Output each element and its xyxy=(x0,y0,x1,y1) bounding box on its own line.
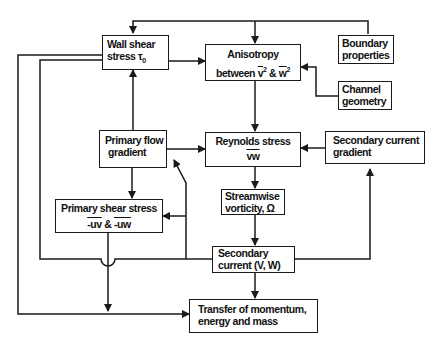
boundary-line1: Boundary xyxy=(342,37,390,49)
channel-line1: Channel xyxy=(342,83,388,95)
wall-shear-line1: Wall shear xyxy=(107,38,164,50)
anisotropy-line1: Anisotropy xyxy=(210,48,296,60)
node-secondary-current: Secondary current (V, W) xyxy=(212,246,295,273)
reynolds-line1: Reynolds stress xyxy=(210,135,296,147)
flowchart: Wall shear stress τ0 Anisotropy between … xyxy=(0,0,434,351)
vorticity-line1: Streamwise xyxy=(225,190,281,202)
w-bar: w xyxy=(279,67,287,79)
anisotropy-line2: between v2 & w2 xyxy=(210,64,296,79)
edge-channel-to-anisotropy xyxy=(301,67,338,96)
w-squared: 2 xyxy=(287,66,291,73)
node-secondary-current-gradient: Secondary current gradient xyxy=(325,131,425,164)
node-transfer: Transfer of momentum, energy and mass xyxy=(189,299,318,333)
tau-subscript: 0 xyxy=(142,57,146,64)
uv-bar: -uv xyxy=(87,218,102,230)
wall-shear-line2: stress τ0 xyxy=(107,50,164,67)
primary-shear-line2: -uv & -uw xyxy=(60,218,158,230)
edge-wallshear-to-transfer xyxy=(18,55,189,314)
wall-shear-prefix: stress xyxy=(107,50,138,62)
primary-flow-line1: Primary flow xyxy=(105,134,161,146)
node-channel-geometry: Channel geometry xyxy=(338,81,392,110)
seccurrent-line2: current (V, W) xyxy=(218,259,289,271)
amp: & xyxy=(102,218,114,230)
seccurrent-line1: Secondary xyxy=(218,247,289,259)
node-primary-shear-stress: Primary shear stress -uv & -uw xyxy=(55,199,163,233)
node-wall-shear-stress: Wall shear stress τ0 xyxy=(102,35,169,70)
edge-boundary-to-wallshear xyxy=(133,21,368,34)
secgradient-line1: Secondary current xyxy=(333,134,417,146)
vorticity-line2: vorticity, Ω xyxy=(225,202,281,214)
amp: & xyxy=(267,67,279,79)
uw-bar: -uw xyxy=(114,218,131,230)
primary-flow-line2: gradient xyxy=(105,146,161,158)
channel-line2: geometry xyxy=(342,95,388,107)
transfer-line2: energy and mass xyxy=(198,315,309,327)
node-boundary-properties: Boundary properties xyxy=(338,35,394,64)
boundary-line2: properties xyxy=(342,49,390,61)
edge-seccurrent-to-primaryflow xyxy=(174,160,186,259)
node-anisotropy: Anisotropy between v2 & w2 xyxy=(205,44,301,81)
primary-shear-line1: Primary shear stress xyxy=(60,202,158,214)
secgradient-line2: gradient xyxy=(333,146,417,158)
reynolds-vw: vw xyxy=(210,150,296,162)
anisotropy-prefix: between xyxy=(216,67,258,79)
node-streamwise-vorticity: Streamwise vorticity, Ω xyxy=(221,189,285,215)
transfer-line1: Transfer of momentum, xyxy=(198,303,309,315)
node-reynolds-stress: Reynolds stress vw xyxy=(205,132,301,167)
node-primary-flow-gradient: Primary flow gradient xyxy=(99,130,167,168)
edge-seccurrent-to-secgradient xyxy=(295,169,370,259)
